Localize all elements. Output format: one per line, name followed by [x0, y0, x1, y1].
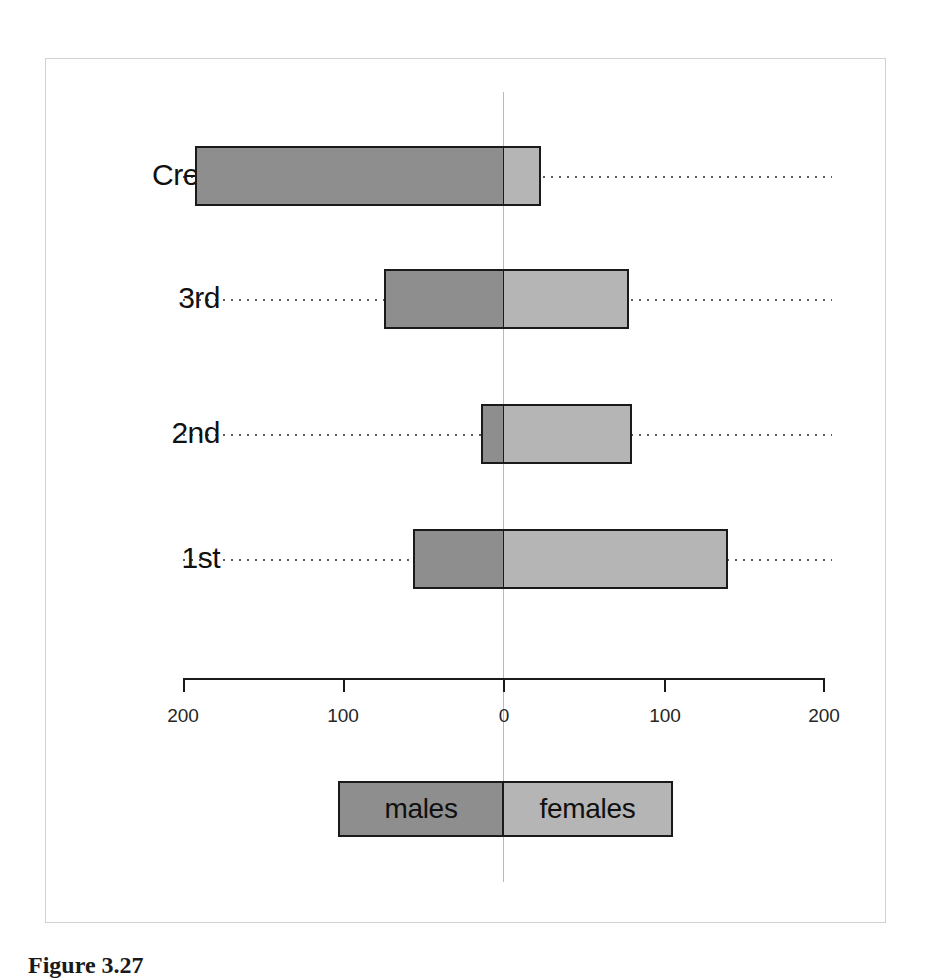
legend-swatch-males: males: [338, 781, 503, 837]
x-axis-tick-100-right: [664, 678, 666, 692]
zero-reference-line: [503, 92, 504, 882]
category-label-3rd: 3rd: [80, 283, 220, 313]
x-axis-tick-100-left: [343, 678, 345, 692]
figure-caption: Figure 3.27: [28, 952, 144, 979]
category-label-2nd: 2nd: [80, 418, 220, 448]
legend: males females: [338, 781, 673, 837]
x-axis: 200 100 0 100 200: [183, 678, 825, 679]
bar-crew-females: [503, 146, 541, 206]
x-axis-tick-200-left: [183, 678, 185, 692]
legend-swatch-females: females: [503, 781, 673, 837]
x-axis-label-0: 0: [469, 706, 539, 725]
bar-3rd-females: [503, 269, 629, 329]
x-axis-label-200-left: 200: [148, 706, 218, 725]
bar-crew-males: [195, 146, 504, 206]
legend-label-females: females: [540, 793, 636, 825]
legend-label-males: males: [384, 793, 457, 825]
x-axis-label-100-left: 100: [308, 706, 378, 725]
bar-2nd-females: [503, 404, 632, 464]
category-label-1st: 1st: [80, 543, 220, 573]
x-axis-tick-0: [503, 678, 505, 692]
bar-2nd-males: [481, 404, 504, 464]
bar-1st-males: [413, 529, 504, 589]
x-axis-label-100-right: 100: [630, 706, 700, 725]
bar-3rd-males: [384, 269, 504, 329]
bar-1st-females: [503, 529, 728, 589]
x-axis-tick-200-right: [823, 678, 825, 692]
x-axis-label-200-right: 200: [789, 706, 859, 725]
